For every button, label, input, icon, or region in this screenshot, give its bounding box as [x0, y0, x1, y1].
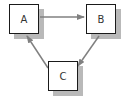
node-a: A: [9, 4, 39, 34]
node-b: B: [86, 4, 116, 34]
node-a-label: A: [21, 14, 28, 25]
node-c-label: C: [60, 71, 67, 82]
edge-b-to-c: [78, 36, 99, 66]
node-c: C: [48, 61, 78, 91]
edge-c-to-a: [27, 36, 48, 68]
node-b-label: B: [98, 14, 105, 25]
